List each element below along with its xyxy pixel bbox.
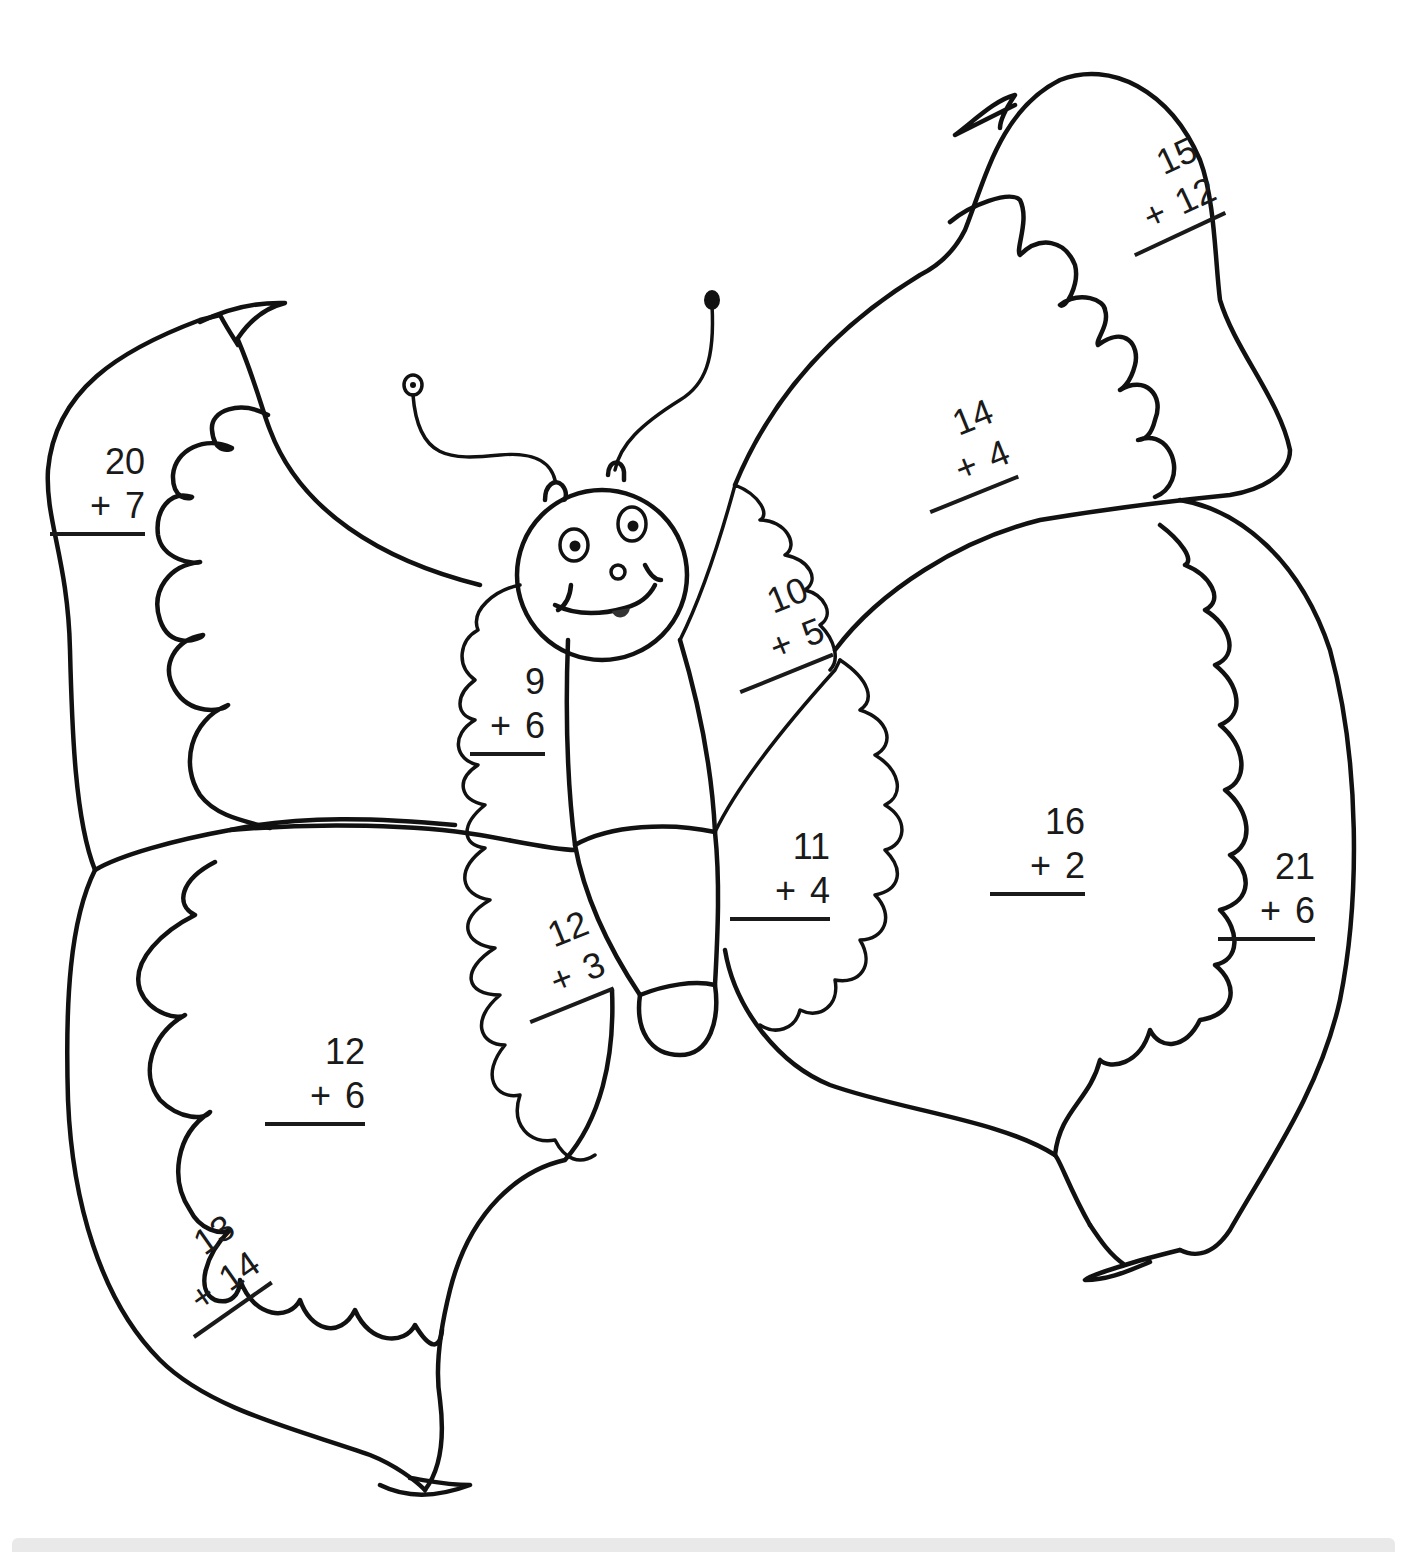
addend-bottom: 6 bbox=[1295, 893, 1315, 929]
left-upper-wing-scallop bbox=[157, 408, 270, 828]
addend-top: 12 bbox=[325, 1034, 365, 1070]
addition-problem-left-lower-center[interactable]: 12+6 bbox=[265, 1030, 365, 1126]
plus-sign: + bbox=[1030, 848, 1051, 884]
addend-bottom: 6 bbox=[345, 1078, 365, 1114]
answer-line[interactable] bbox=[1218, 937, 1315, 941]
right-antenna-tip bbox=[704, 290, 720, 310]
addition-problem-right-lower-inner[interactable]: 11+4 bbox=[730, 825, 830, 921]
addition-problem-left-upper-outer[interactable]: 20+7 bbox=[50, 440, 145, 536]
left-upper-wing-edge bbox=[238, 340, 480, 585]
left-lower-wing-outline bbox=[67, 870, 425, 1490]
left-lower-wing-tip bbox=[380, 990, 612, 1494]
plus-sign: + bbox=[490, 708, 511, 744]
addend-top: 21 bbox=[1275, 849, 1315, 885]
addend-bottom: 4 bbox=[810, 873, 830, 909]
addend-top: 20 bbox=[105, 444, 145, 480]
addend-bottom: 7 bbox=[125, 488, 145, 524]
answer-line[interactable] bbox=[470, 752, 545, 756]
answer-line[interactable] bbox=[265, 1122, 365, 1126]
addition-problem-right-lower-center[interactable]: 16+2 bbox=[990, 800, 1085, 896]
smile bbox=[555, 565, 661, 613]
plus-sign: + bbox=[545, 959, 578, 1000]
nose bbox=[611, 565, 625, 579]
addend-bottom: 6 bbox=[525, 708, 545, 744]
left-antenna bbox=[413, 395, 555, 480]
right-upper-wing-outline bbox=[735, 74, 1290, 650]
left-antenna-dot bbox=[410, 382, 416, 388]
addition-problem-right-lower-outer[interactable]: 21+6 bbox=[1218, 845, 1315, 941]
plus-sign: + bbox=[184, 1276, 222, 1318]
answer-line[interactable] bbox=[990, 892, 1085, 896]
addend-top: 9 bbox=[525, 664, 545, 700]
left-upper-wing-tip bbox=[200, 303, 285, 345]
right-antenna bbox=[615, 305, 713, 470]
plus-sign: + bbox=[950, 447, 983, 488]
right-wing-divider bbox=[715, 660, 840, 832]
left-pupil bbox=[570, 541, 581, 552]
right-lower-wing-edge bbox=[725, 950, 1090, 1225]
left-upper-wing-outline bbox=[48, 315, 455, 870]
right-lower-wing-tip bbox=[1085, 1225, 1180, 1280]
left-lower-wing-edge bbox=[230, 825, 575, 850]
right-pupil bbox=[628, 521, 639, 532]
addition-problem-left-upper-inner[interactable]: 9+6 bbox=[470, 660, 545, 756]
answer-line[interactable] bbox=[730, 917, 830, 921]
plus-sign: + bbox=[1138, 194, 1172, 236]
addend-top: 16 bbox=[1045, 804, 1085, 840]
butterfly-thorax bbox=[567, 640, 715, 845]
butterfly-head bbox=[517, 490, 687, 660]
addend-top: 11 bbox=[793, 829, 830, 865]
plus-sign: + bbox=[765, 625, 798, 666]
plus-sign: + bbox=[775, 873, 796, 909]
bottom-gray-bar bbox=[12, 1538, 1395, 1552]
addend-bottom: 2 bbox=[1065, 848, 1085, 884]
butterfly-tail bbox=[639, 985, 716, 1055]
plus-sign: + bbox=[1260, 893, 1281, 929]
answer-line[interactable] bbox=[50, 532, 145, 536]
plus-sign: + bbox=[90, 488, 111, 524]
plus-sign: + bbox=[310, 1078, 331, 1114]
